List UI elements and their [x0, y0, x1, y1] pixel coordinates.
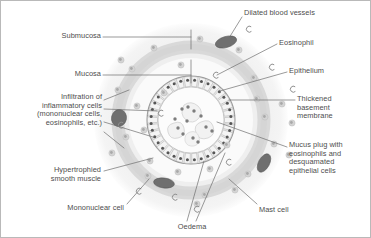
basement-membrane-nucleus — [166, 151, 169, 154]
inflammatory-cell — [289, 120, 295, 126]
basement-membrane-nucleus — [179, 157, 182, 160]
label-eosinophil: Eosinophil — [279, 39, 359, 48]
epithelial-cell — [147, 117, 157, 123]
basement-membrane-nucleus — [173, 155, 176, 158]
inflammatory-cell — [232, 187, 238, 193]
mast-cell — [290, 86, 295, 92]
inflammatory-cell — [145, 173, 151, 179]
label-epithelium: Epithelium — [289, 67, 369, 76]
inflammatory-cell — [236, 47, 242, 53]
basement-membrane-nucleus — [207, 82, 210, 85]
basement-membrane-nucleus — [151, 129, 154, 132]
basement-membrane-nucleus — [157, 141, 160, 144]
mast-cell — [246, 26, 251, 32]
basement-membrane-nucleus — [161, 147, 164, 150]
label-thickened-basement-membrane: Thickened basement membrane — [297, 95, 371, 121]
basement-membrane-nucleus — [186, 79, 189, 82]
basement-membrane-nucleus — [229, 115, 232, 118]
inflammatory-cell — [251, 75, 257, 81]
label-mucosa: Mucosa — [15, 70, 101, 79]
label-mucus-plug: Mucus plug with eosinophils and desquama… — [289, 141, 371, 175]
label-submucosa: Submucosa — [15, 32, 101, 41]
basement-membrane-nucleus — [229, 122, 232, 125]
mucus-plug-cell — [199, 114, 202, 117]
mucus-plug-cell — [191, 136, 194, 139]
basement-membrane-nucleus — [193, 158, 196, 161]
label-infiltration-of-inflammatory-cells: Infiltration of inflammatory cells (mono… — [2, 93, 102, 127]
figure-frame: Submucosa Mucosa Infiltration of inflamm… — [0, 0, 371, 238]
mucus-plug-cell — [185, 119, 188, 122]
inflammatory-cell — [224, 142, 230, 148]
inflammatory-cell — [134, 103, 140, 109]
basement-membrane-nucleus — [150, 115, 153, 118]
basement-membrane-nucleus — [200, 80, 203, 83]
inflammatory-cell — [161, 90, 167, 96]
inflammatory-cell — [141, 127, 147, 133]
label-hypertrophied-smooth-muscle: Hypertrophied smooth muscle — [15, 166, 101, 183]
mucus-plug-cell — [180, 107, 183, 110]
inflammatory-cell — [207, 166, 213, 172]
basement-membrane-nucleus — [179, 80, 182, 83]
label-mononuclear-cell: Mononuclear cell — [24, 204, 124, 213]
basement-membrane-nucleus — [193, 79, 196, 82]
mucus-plug-cell — [204, 125, 207, 128]
basement-membrane-nucleus — [167, 86, 170, 89]
basement-membrane-nucleus — [150, 122, 153, 125]
basement-membrane-nucleus — [173, 82, 176, 85]
mucus-plug-cell — [196, 140, 199, 143]
inflammatory-cell — [279, 101, 285, 107]
basement-membrane-nucleus — [222, 96, 225, 99]
inflammatory-cell — [262, 114, 268, 120]
basement-membrane-nucleus — [226, 102, 229, 105]
basement-membrane-nucleus — [228, 129, 231, 132]
basement-membrane-nucleus — [153, 135, 156, 138]
basement-membrane-nucleus — [206, 155, 209, 158]
mucus-plug-cell — [186, 105, 189, 108]
inflammatory-cell — [178, 62, 184, 68]
mucus-plug-cell — [181, 132, 184, 135]
basement-membrane-nucleus — [157, 95, 160, 98]
label-dilated-blood-vessels: Dilated blood vessels — [244, 9, 356, 18]
mucus-plug-cell — [176, 126, 179, 129]
basement-membrane-nucleus — [212, 151, 215, 154]
inflammatory-cell — [245, 171, 251, 177]
inflammatory-cell — [175, 169, 181, 175]
basement-membrane-nucleus — [228, 108, 231, 111]
basement-membrane-nucleus — [226, 136, 229, 139]
basement-membrane-nucleus — [213, 86, 216, 89]
label-mast-cell: Mast cell — [259, 206, 319, 215]
inflammatory-cell — [197, 36, 203, 42]
basement-membrane-nucleus — [186, 158, 189, 161]
mucus-plug-cell — [192, 109, 195, 112]
basement-membrane-nucleus — [200, 157, 203, 160]
inflammatory-cell — [129, 66, 135, 72]
mucus-plug-cell — [173, 117, 176, 120]
mucus-plug-cell — [210, 129, 213, 132]
inflammatory-cell — [151, 45, 157, 51]
inflammatory-cell — [123, 134, 129, 140]
basement-membrane-nucleus — [218, 147, 221, 150]
label-oedema: Oedema — [167, 223, 217, 232]
epithelial-cell — [224, 117, 234, 123]
basement-membrane-nucleus — [153, 102, 156, 105]
inflammatory-cell — [254, 96, 260, 102]
inflammatory-cell — [115, 87, 121, 93]
inflammatory-cell — [109, 150, 115, 156]
inflammatory-cell — [118, 57, 124, 63]
